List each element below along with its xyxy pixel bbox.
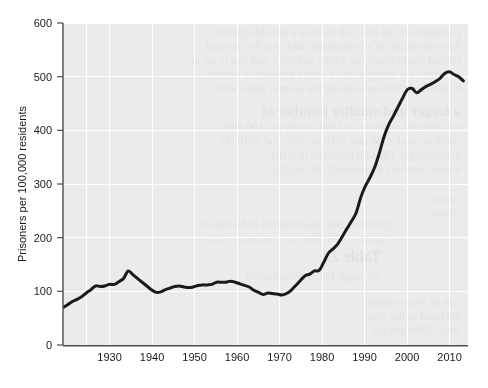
y-tick-label-100: 100 bbox=[34, 285, 52, 297]
x-tick-label-1980: 1980 bbox=[310, 351, 334, 363]
svg-text:a larger and smaller number of: a larger and smaller number of bbox=[260, 103, 461, 119]
x-tick-labels: 1930 1940 1950 1960 1970 1980 1990 2000 … bbox=[97, 351, 461, 363]
y-tick-label-200: 200 bbox=[34, 232, 52, 244]
y-tick-label-300: 300 bbox=[34, 178, 52, 190]
x-tick-label-1940: 1940 bbox=[140, 351, 164, 363]
line-chart: prevalent and all risk will exist as a s… bbox=[0, 0, 488, 388]
x-tick-label-2010: 2010 bbox=[437, 351, 461, 363]
y-axis-title: Prisoners per 100,000 residents bbox=[16, 106, 28, 262]
y-tick-label-500: 500 bbox=[34, 71, 52, 83]
y-tick-label-0: 0 bbox=[46, 339, 52, 351]
chart-figure: prevalent and all risk will exist as a s… bbox=[0, 0, 488, 388]
svg-text:residents and 2000 and 2010 to: residents and 2000 and 2010 to 2008 and … bbox=[219, 134, 461, 148]
svg-text:rate of incarceration: rate of incarceration bbox=[364, 295, 461, 309]
x-tick-label-1970: 1970 bbox=[267, 351, 291, 363]
svg-text:Others: Others bbox=[427, 206, 456, 218]
svg-text:prisoners are brought into a s: prisoners are brought into a single popu… bbox=[209, 67, 461, 81]
x-tick-label-1950: 1950 bbox=[182, 351, 206, 363]
svg-text:prisoners and incarceration in: prisoners and incarceration in historica… bbox=[200, 217, 391, 231]
svg-text:Table 2.1: Table 2.1 bbox=[319, 248, 381, 265]
svg-text:per 100,000 residents in 1980: per 100,000 residents in 1980 to 500 per… bbox=[225, 120, 461, 134]
y-tick-label-400: 400 bbox=[34, 124, 52, 136]
svg-text:United States reach the 1970s: United States reach the 1970s and 2011 a… bbox=[191, 53, 461, 67]
x-tick-label-2000: 2000 bbox=[395, 351, 419, 363]
svg-text:whose numbers increased from r: whose numbers increased from roughly bbox=[271, 162, 461, 176]
svg-text:since 2008 and the: since 2008 and the bbox=[371, 323, 461, 337]
svg-text:prevalent and all risk will ex: prevalent and all risk will exist as a s… bbox=[212, 25, 461, 39]
svg-text:declined in the years: declined in the years bbox=[362, 309, 461, 323]
svg-text:Prison: Prison bbox=[427, 193, 456, 205]
x-tick-label-1990: 1990 bbox=[352, 351, 376, 363]
x-tick-label-1960: 1960 bbox=[225, 351, 249, 363]
y-tick-label-600: 600 bbox=[34, 17, 52, 29]
svg-text:prisoners per 100,000 resident: prisoners per 100,000 residents in 2010 bbox=[272, 148, 461, 162]
svg-text:the expectation of a compariso: the expectation of a comparison and thus… bbox=[206, 39, 461, 53]
x-tick-label-1930: 1930 bbox=[97, 351, 121, 363]
